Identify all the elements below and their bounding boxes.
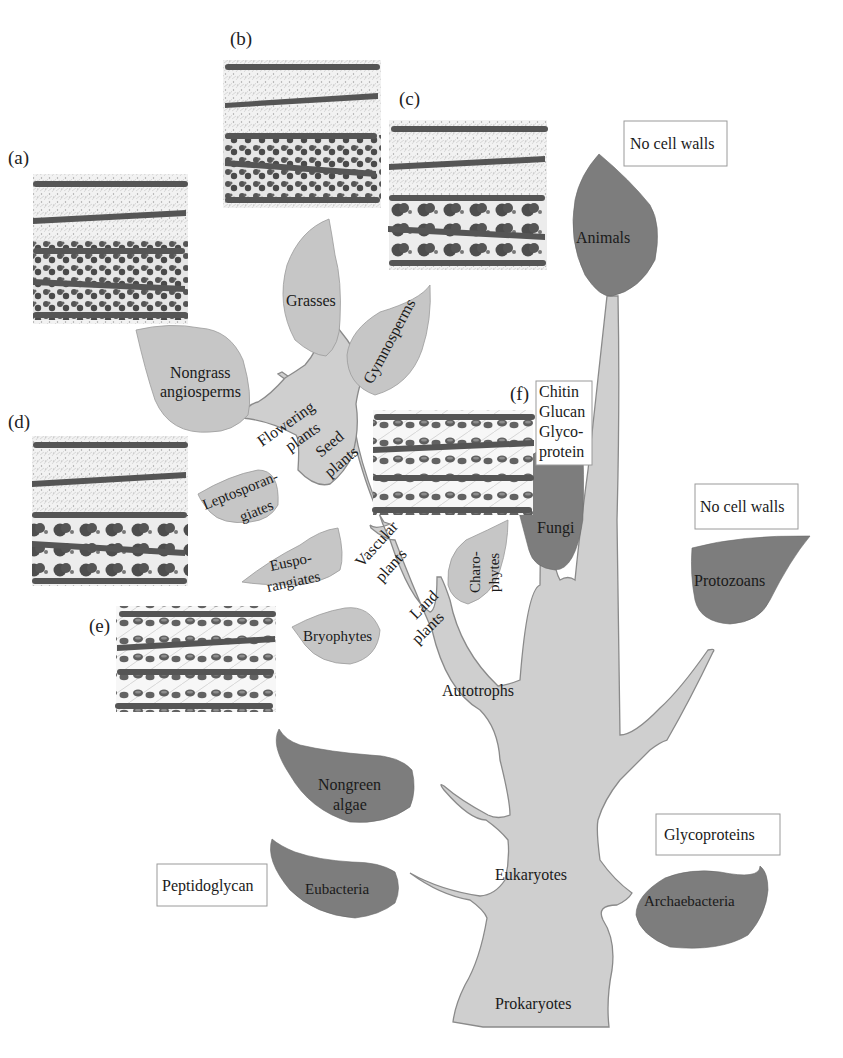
tree-of-life-diagram: (a) (b) (c) (0, 0, 843, 1058)
box-animals-no-cell-walls: No cell walls (624, 121, 727, 166)
panel-label-f: (f) (510, 383, 529, 405)
label-grasses: Grasses (286, 292, 336, 309)
svg-text:Glyco-: Glyco- (539, 423, 583, 441)
label-nongrass-2: angiosperms (160, 383, 241, 401)
svg-text:Glucan: Glucan (539, 403, 585, 420)
svg-text:Peptidoglycan: Peptidoglycan (162, 877, 254, 895)
label-charophytes-1: Charo- (467, 551, 483, 593)
label-nongrass-1: Nongrass (170, 364, 230, 382)
panel-label-b: (b) (230, 28, 252, 50)
panel-label-a: (a) (8, 147, 29, 169)
leaf-grasses (283, 219, 340, 356)
label-bryophytes: Bryophytes (303, 628, 372, 644)
label-eukaryotes: Eukaryotes (495, 866, 567, 884)
label-prokaryotes: Prokaryotes (495, 995, 571, 1013)
leaf-eubacteria (270, 839, 398, 918)
box-protozoans-no-cell-walls: No cell walls (695, 484, 798, 529)
svg-text:protein: protein (539, 443, 584, 461)
svg-text:No cell walls: No cell walls (630, 135, 714, 152)
label-fungi: Fungi (537, 519, 575, 537)
panel-label-d: (d) (8, 411, 30, 433)
panel-label-c: (c) (399, 88, 420, 110)
label-charophytes-2: phytes (486, 553, 502, 592)
svg-text:Chitin: Chitin (539, 383, 579, 400)
label-eubacteria: Eubacteria (305, 881, 369, 897)
label-nongreen-1: Nongreen (318, 776, 381, 794)
box-archaea-glycoproteins: Glycoproteins (656, 814, 780, 855)
panel-label-e: (e) (89, 615, 110, 637)
svg-text:No cell walls: No cell walls (700, 498, 784, 515)
label-autotrophs: Autotrophs (442, 682, 514, 700)
label-animals: Animals (576, 229, 630, 246)
cell-wall-panel-b: (b) (223, 28, 381, 208)
box-eubacteria-peptidoglycan: Peptidoglycan (157, 864, 267, 906)
box-fungi-wall: Chitin Glucan Glyco- protein (536, 381, 592, 465)
label-protozoans: Protozoans (694, 572, 765, 589)
cell-wall-panel-d: (d) (8, 411, 188, 586)
cell-wall-panel-a: (a) (8, 147, 188, 324)
svg-text:Glycoproteins: Glycoproteins (664, 826, 755, 844)
cell-wall-panel-e: (e) (89, 606, 276, 712)
cell-wall-panel-c: (c) (388, 88, 548, 270)
leaf-animals (573, 154, 658, 296)
cell-wall-panel-f: (f) (372, 383, 535, 515)
label-archaebacteria: Archaebacteria (644, 893, 735, 909)
label-nongreen-2: algae (333, 796, 367, 814)
